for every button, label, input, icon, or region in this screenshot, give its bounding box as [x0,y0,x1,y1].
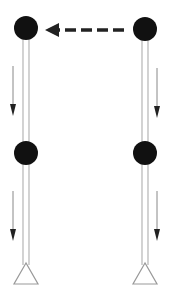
left-support-triangle [14,263,38,284]
arrow-down-icon [154,106,160,118]
left-top-node [14,16,38,40]
arrow-down-icon [10,104,16,116]
right-column [133,17,157,284]
left-column [14,16,38,284]
horizontal-dashed-arrow [45,23,124,37]
arrow-down-icon [154,229,160,241]
left-middle-node [14,141,38,165]
right-support-triangle [133,263,157,284]
right-middle-node [133,141,157,165]
frame-diagram [0,0,170,301]
right-top-node [133,17,157,41]
arrow-left-icon [45,23,59,37]
arrow-down-icon [10,229,16,241]
